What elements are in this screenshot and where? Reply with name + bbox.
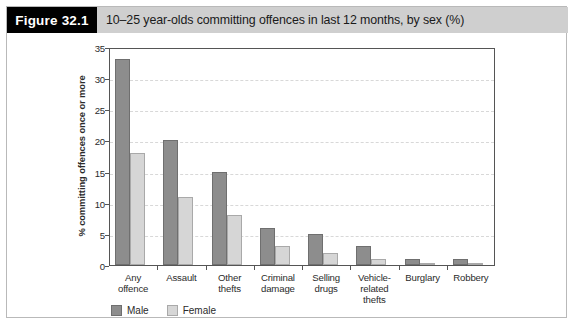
x-axis-tick-mark bbox=[206, 266, 207, 270]
x-axis-category-label: Robbery bbox=[438, 272, 504, 283]
bar-female bbox=[178, 197, 193, 266]
figure-title: 10–25 year-olds committing offences in l… bbox=[97, 7, 568, 33]
legend-swatch-male bbox=[111, 305, 122, 316]
y-axis-tick-label: 0 bbox=[83, 261, 105, 272]
x-axis-category-label-line: thefts bbox=[341, 294, 407, 305]
plot-area bbox=[109, 48, 495, 266]
bar-female bbox=[420, 263, 435, 265]
y-axis-tick-label: 30 bbox=[83, 74, 105, 85]
y-axis-tick-label: 25 bbox=[83, 105, 105, 116]
legend-item-female: Female bbox=[167, 305, 216, 316]
bar-male bbox=[115, 59, 130, 265]
x-axis-tick-mark bbox=[254, 266, 255, 270]
x-axis-tick-marks bbox=[109, 266, 495, 271]
x-axis-tick-mark bbox=[157, 266, 158, 270]
legend-label-male: Male bbox=[127, 305, 149, 316]
y-axis-tick-label: 10 bbox=[83, 198, 105, 209]
legend-item-male: Male bbox=[111, 305, 149, 316]
y-axis-tick-labels: 05101520253035 bbox=[79, 48, 105, 266]
bar-male bbox=[260, 228, 275, 265]
bar-male bbox=[163, 140, 178, 265]
y-axis-tick-label: 15 bbox=[83, 167, 105, 178]
y-axis-tick-label: 20 bbox=[83, 136, 105, 147]
bars-layer bbox=[110, 49, 494, 265]
bar-male bbox=[308, 234, 323, 265]
x-axis-tick-mark bbox=[399, 266, 400, 270]
legend-label-female: Female bbox=[183, 305, 216, 316]
legend-swatch-female bbox=[167, 305, 178, 316]
figure-header: Figure 32.1 10–25 year-olds committing o… bbox=[7, 7, 568, 33]
x-axis-category-label-line: Robbery bbox=[438, 272, 504, 283]
bar-male bbox=[405, 259, 420, 265]
figure-page: Figure 32.1 10–25 year-olds committing o… bbox=[0, 0, 575, 331]
x-axis-tick-mark bbox=[302, 266, 303, 270]
x-axis-tick-mark bbox=[350, 266, 351, 270]
figure-frame: Figure 32.1 10–25 year-olds committing o… bbox=[6, 6, 567, 318]
bar-female bbox=[468, 263, 483, 265]
bar-male bbox=[356, 246, 371, 265]
y-axis-tick-label: 35 bbox=[83, 43, 105, 54]
bar-female bbox=[371, 259, 386, 265]
figure-number-tag: Figure 32.1 bbox=[7, 7, 97, 33]
bar-female bbox=[130, 153, 145, 265]
chart-legend: MaleFemale bbox=[111, 305, 228, 316]
x-axis-tick-mark bbox=[447, 266, 448, 270]
x-axis-category-label-line: offence bbox=[100, 283, 166, 294]
bar-female bbox=[227, 215, 242, 265]
x-axis-category-label-line: related bbox=[341, 283, 407, 294]
bar-female bbox=[323, 253, 338, 265]
y-axis-tick-label: 5 bbox=[83, 229, 105, 240]
bar-female bbox=[275, 246, 290, 265]
bar-male bbox=[212, 172, 227, 265]
bar-male bbox=[453, 259, 468, 265]
chart-body: % committing offences once or more 05101… bbox=[7, 33, 568, 318]
